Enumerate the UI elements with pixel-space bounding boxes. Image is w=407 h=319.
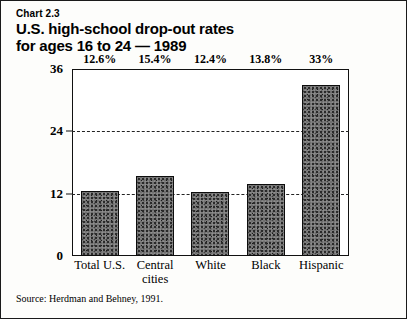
x-label-line: Hispanic	[294, 258, 348, 272]
chart-title-line-1: U.S. high-school drop-out rates	[16, 20, 356, 37]
bar-value-label: 12.4%	[194, 52, 227, 67]
x-label-central-cities: Central cities	[128, 258, 182, 286]
y-axis-label-12: 12	[50, 186, 63, 202]
x-label-line: Black	[239, 258, 293, 272]
bar-slot: 33%	[302, 69, 340, 256]
x-label-line: White	[183, 258, 237, 272]
bar-total-us	[81, 191, 119, 256]
bar-white	[191, 192, 229, 256]
source-note: Source: Herdman and Behney, 1991.	[16, 293, 163, 304]
bar-hispanic	[302, 85, 340, 256]
bar-series: 12.6% 15.4% 12.4% 13.8% 33%	[72, 69, 349, 256]
bar-value-label: 13.8%	[249, 52, 282, 67]
x-label-hispanic: Hispanic	[294, 258, 348, 286]
x-label-line: cities	[128, 272, 182, 286]
chart-figure: Chart 2.3 U.S. high-school drop-out rate…	[0, 0, 407, 319]
chart-title-line-2: for ages 16 to 24 — 1989	[16, 37, 356, 54]
bar-value-label: 15.4%	[139, 52, 172, 67]
y-axis-label-36: 36	[50, 61, 63, 77]
plot-area: 36 24 12 0 12.6% 15.4% 12.4% 13.8%	[72, 69, 349, 256]
bar-slot: 12.6%	[81, 69, 119, 256]
bar-slot: 12.4%	[191, 69, 229, 256]
x-label-total-us: Total U.S.	[73, 258, 127, 286]
bar-value-label: 12.6%	[83, 52, 116, 67]
chart-number: Chart 2.3	[16, 8, 356, 20]
bar-central-cities	[136, 176, 174, 256]
x-label-black: Black	[239, 258, 293, 286]
x-axis-labels: Total U.S. Central cities White Black Hi…	[72, 258, 349, 286]
bar-slot: 13.8%	[247, 69, 285, 256]
x-label-white: White	[183, 258, 237, 286]
y-axis-label-24: 24	[50, 123, 63, 139]
bar-slot: 15.4%	[136, 69, 174, 256]
x-label-line: Central	[128, 258, 182, 272]
x-label-line: Total U.S.	[73, 258, 127, 272]
y-axis-label-0: 0	[57, 248, 64, 264]
bar-black	[247, 184, 285, 256]
title-block: Chart 2.3 U.S. high-school drop-out rate…	[16, 8, 356, 54]
bar-value-label: 33%	[309, 52, 333, 67]
